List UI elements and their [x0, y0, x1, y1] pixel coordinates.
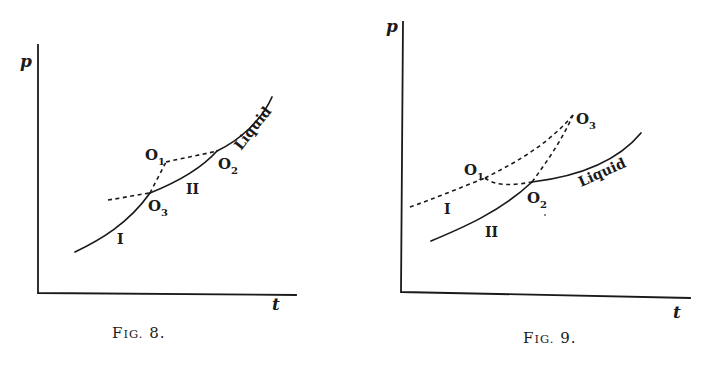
fig8-dashed-I-extension	[108, 193, 150, 200]
svg-text:O: O	[527, 189, 540, 207]
svg-text:O: O	[576, 110, 589, 128]
fig9-diagram: p t O 1 O 2 O 3 I II Liquid FIG. 9.	[386, 16, 690, 347]
fig8-y-axis-label: p	[20, 51, 32, 71]
svg-text:1: 1	[477, 171, 484, 182]
diagram-canvas: p t O 1 O 2 O 3 I II Liquid FIG. 8.	[0, 0, 709, 368]
svg-text:1: 1	[158, 156, 165, 167]
fig9-dashed-O1-O2	[485, 178, 532, 185]
fig9-label-liquid: Liquid	[576, 155, 629, 190]
svg-text:O: O	[218, 155, 231, 173]
fig8-axes	[38, 45, 296, 295]
fig9-x-axis-label: t	[673, 302, 681, 322]
svg-text:2: 2	[231, 165, 238, 176]
fig9-label-II: II	[485, 224, 498, 240]
svg-text:O: O	[145, 146, 158, 164]
fig9-label-I: I	[444, 201, 451, 217]
fig8-diagram: p t O 1 O 2 O 3 I II Liquid FIG. 8.	[20, 45, 296, 342]
fig8-label-O2: O 2	[218, 155, 238, 176]
fig9-y-axis-label: p	[386, 16, 398, 36]
fig9-caption: FIG. 9.	[523, 329, 577, 347]
fig8-label-II: II	[186, 181, 199, 197]
fig9-axes	[401, 22, 690, 298]
fig8-label-I: I	[117, 231, 124, 247]
fig8-x-axis-label: t	[272, 294, 280, 314]
svg-text:O: O	[464, 161, 477, 179]
fig8-dashed-O1-O2	[166, 151, 217, 162]
svg-text:O: O	[148, 197, 161, 215]
fig8-label-O1: O 1	[145, 146, 165, 167]
fig9-dashed-O1-O3	[485, 115, 573, 178]
fig8-label-O3: O 3	[148, 197, 168, 218]
svg-text:3: 3	[161, 207, 168, 218]
figure-page: p t O 1 O 2 O 3 I II Liquid FIG. 8.	[0, 0, 709, 368]
svg-text:3: 3	[589, 120, 596, 131]
fig8-caption: FIG. 8.	[112, 324, 166, 342]
fig9-label-O1: O 1	[464, 161, 484, 182]
fig8-label-liquid: Liquid	[231, 103, 275, 153]
fig9-dashed-O2-O3	[532, 115, 573, 182]
fig9-label-O3: O 3	[576, 110, 596, 131]
fig9-label-O2: O 2	[527, 189, 547, 210]
fig9-print-speck	[544, 214, 546, 216]
fig8-curve-I	[75, 193, 150, 252]
svg-text:2: 2	[540, 199, 547, 210]
